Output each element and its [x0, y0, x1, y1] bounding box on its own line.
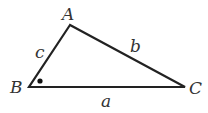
triangle-abc — [29, 25, 185, 87]
vertex-label-c: C — [189, 78, 202, 98]
side-label-b: b — [130, 36, 141, 56]
vertex-label-a: A — [60, 4, 74, 24]
right-angle-dot-marker — [37, 78, 42, 83]
side-label-c: c — [35, 42, 45, 62]
triangle-diagram: A B C c b a — [0, 0, 208, 113]
side-label-a: a — [101, 91, 111, 111]
vertex-label-b: B — [9, 77, 23, 97]
